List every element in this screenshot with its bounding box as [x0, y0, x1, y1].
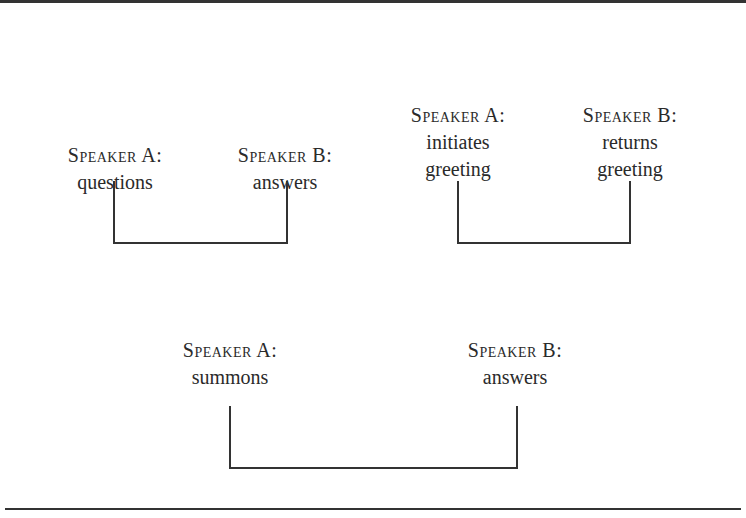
pair2-speaker-b: Speaker B: returns greeting [545, 102, 715, 183]
pair1-bracket [113, 181, 288, 244]
action-label: initiates [373, 129, 543, 156]
bottom-rule [5, 508, 741, 510]
action-label: summons [145, 364, 315, 391]
top-rule [0, 0, 746, 3]
speaker-label: Speaker A: [145, 337, 315, 364]
pair2-speaker-a: Speaker A: initiates greeting [373, 102, 543, 183]
action-label: greeting [373, 156, 543, 183]
speaker-label: Speaker B: [545, 102, 715, 129]
speaker-label: Speaker B: [200, 142, 370, 169]
speaker-label: Speaker B: [430, 337, 600, 364]
pair3-speaker-b: Speaker B: answers [430, 337, 600, 391]
pair3-bracket [229, 406, 518, 469]
action-label: returns [545, 129, 715, 156]
action-label: answers [430, 364, 600, 391]
speaker-label: Speaker A: [30, 142, 200, 169]
pair2-bracket [457, 181, 631, 244]
speaker-label: Speaker A: [373, 102, 543, 129]
pair3-speaker-a: Speaker A: summons [145, 337, 315, 391]
action-label: greeting [545, 156, 715, 183]
